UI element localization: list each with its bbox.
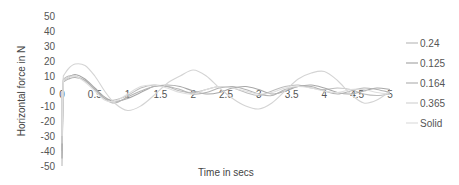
y-tick-label: 10 — [44, 71, 56, 82]
y-tick-label: -50 — [41, 161, 56, 172]
y-tick-label: -20 — [41, 116, 56, 127]
plot-lines — [62, 64, 390, 166]
x-axis-title: Time in secs — [198, 167, 254, 178]
series-line — [62, 76, 390, 136]
y-tick-label: -40 — [41, 146, 56, 157]
legend-label: 0.125 — [420, 58, 445, 69]
y-tick-label: 30 — [44, 41, 56, 52]
legend: 0.240.1250.1640.365Solid — [406, 38, 445, 129]
y-axis-title: Horizontal force in N — [16, 46, 27, 137]
series-line — [62, 64, 390, 144]
legend-label: Solid — [420, 118, 442, 129]
legend-label: 0.365 — [420, 98, 445, 109]
y-axis-ticks: 50403020100-10-20-30-40-50 — [41, 11, 56, 172]
y-tick-label: -10 — [41, 101, 56, 112]
y-tick-label: -30 — [41, 131, 56, 142]
y-tick-label: 20 — [44, 56, 56, 67]
y-tick-label: 0 — [49, 86, 55, 97]
y-tick-label: 50 — [44, 11, 56, 22]
line-chart: 50403020100-10-20-30-40-50 00.511.522.53… — [0, 0, 459, 185]
legend-label: 0.164 — [420, 78, 445, 89]
legend-label: 0.24 — [420, 38, 440, 49]
y-tick-label: 40 — [44, 26, 56, 37]
